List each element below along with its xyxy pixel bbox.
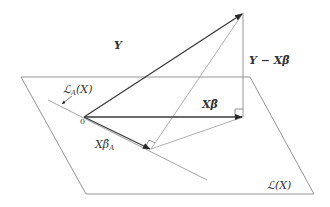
label-subspace: ℒA(X) — [63, 84, 92, 97]
least-squares-diagram: Y Y − Xβ̂ Xβ̂ Xβ̂A 0 ℒA(X) ℒ(X) — [0, 0, 330, 207]
label-xbeta-a-main: Xβ̂ — [95, 138, 109, 151]
label-xbeta-a-sub: A — [109, 144, 114, 152]
label-y: Y — [114, 40, 122, 51]
vector-y — [84, 14, 242, 117]
diagram-canvas — [0, 0, 330, 207]
helper-line-y-to-xba — [151, 13, 243, 149]
label-origin: 0 — [80, 118, 85, 126]
helper-line-xba-to-xb — [151, 117, 243, 149]
vector-xbeta-a — [84, 117, 150, 149]
label-xbeta-a: Xβ̂A — [95, 139, 114, 152]
label-subspace-main: ℒ — [63, 83, 71, 96]
label-xbeta: Xβ̂ — [202, 99, 218, 110]
label-residual: Y − Xβ̂ — [249, 55, 290, 66]
right-angle-mark-xb — [235, 109, 243, 117]
subspace-label-pointer — [62, 96, 72, 104]
label-plane: ℒ(X) — [267, 180, 291, 191]
label-subspace-arg: (X) — [76, 83, 92, 96]
